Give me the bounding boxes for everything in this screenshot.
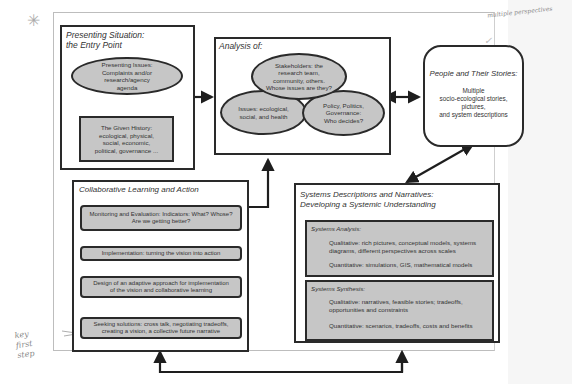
stakeholders-ellipse: Stakeholders: the research team, communi… (251, 53, 347, 100)
given-history-box: The Given History: ecological, physical,… (79, 116, 174, 162)
people-stories-body: Multiple socio-ecological stories, pictu… (425, 87, 522, 119)
entry-point-title: Presenting Situation: the Entry Point (66, 30, 144, 50)
systems-synthesis-qualitative: Qualitative: narratives, feasible storie… (329, 298, 463, 313)
systems-synthesis-title: Systems Synthesis: (311, 285, 365, 292)
step-design: Design of an adaptive approach for imple… (80, 276, 242, 298)
step-seeking-solutions: Seeking solutions: cross talk, negotiati… (80, 317, 242, 339)
checkmark-annotation: ✓ (484, 35, 492, 46)
systems-analysis-title: Systems Analysis: (311, 225, 361, 232)
systems-analysis-qualitative: Qualitative: rich pictures, conceptual m… (329, 239, 476, 254)
analysis-title: Analysis of: (219, 41, 262, 51)
step-implementation: Implementation: turning the vision into … (80, 246, 242, 261)
people-stories-box: People and Their Stories: Multiple socio… (423, 45, 524, 147)
collaborative-title: Collaborative Learning and Action (79, 185, 199, 195)
people-stories-title: People and Their Stories: (425, 69, 522, 78)
systems-synthesis-quantitative: Quantitative: scenarios, tradeoffs, cost… (329, 322, 473, 330)
star-annotation: ✳ (27, 11, 40, 30)
presenting-issues-ellipse: Presenting Issues: Complaints and/or res… (71, 57, 183, 95)
systems-analysis-quantitative: Quantitative: simulations, GIS, mathemat… (329, 261, 472, 269)
systems-analysis-panel: Systems Analysis: Qualitative: rich pict… (305, 220, 494, 277)
systems-synthesis-panel: Systems Synthesis: Qualitative: narrativ… (305, 280, 494, 341)
systems-title: Systems Descriptions and Narratives: Dev… (300, 190, 436, 210)
step-monitoring: Monitoring and Evaluation: Indicators: W… (80, 205, 242, 231)
